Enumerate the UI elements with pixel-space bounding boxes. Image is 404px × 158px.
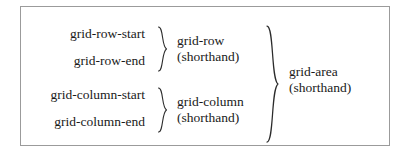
- property-label-grid-column-start: grid-column-start: [51, 87, 145, 102]
- shorthand-grid-area: grid-area (shorthand): [289, 64, 351, 96]
- shorthand-grid-row-qualifier: (shorthand): [177, 49, 239, 65]
- property-label-grid-row-end: grid-row-end: [74, 53, 145, 68]
- shorthand-grid-column-qualifier: (shorthand): [177, 110, 244, 126]
- curly-brace-icon-grid-column: [157, 87, 175, 133]
- diagram-frame: grid-row-start grid-row-end grid-column-…: [20, 6, 390, 146]
- curly-brace-icon-grid-row: [157, 26, 175, 72]
- shorthand-grid-column-name: grid-column: [177, 94, 244, 110]
- property-label-grid-column-end: grid-column-end: [54, 114, 145, 129]
- shorthand-grid-row: grid-row (shorthand): [177, 33, 239, 65]
- shorthand-grid-row-name: grid-row: [177, 33, 239, 49]
- curly-brace-icon-grid-area: [265, 24, 287, 144]
- shorthand-grid-area-qualifier: (shorthand): [289, 80, 351, 96]
- shorthand-grid-column: grid-column (shorthand): [177, 94, 244, 126]
- property-label-grid-row-start: grid-row-start: [70, 26, 145, 41]
- shorthand-grid-area-name: grid-area: [289, 64, 351, 80]
